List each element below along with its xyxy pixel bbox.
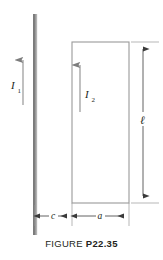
figure-caption-number: P22.35 (86, 238, 118, 249)
length-label: ℓ (140, 114, 145, 126)
rectangular-loop (72, 42, 129, 203)
figure-caption-word: FIGURE (45, 238, 83, 249)
figure-caption: FIGURE P22.35 (0, 238, 163, 249)
physics-figure: I 1 I 2 ℓ c a FIGURE P22.35 (0, 0, 163, 260)
current-1-label: I (10, 79, 16, 91)
current-2-subscript: 2 (92, 96, 96, 104)
current-1-subscript: 1 (18, 87, 22, 95)
width-a-label: a (98, 211, 103, 221)
figure-diagram: I 1 I 2 ℓ c a (0, 0, 163, 260)
current-2-label: I (84, 88, 90, 100)
long-wire (33, 14, 37, 235)
